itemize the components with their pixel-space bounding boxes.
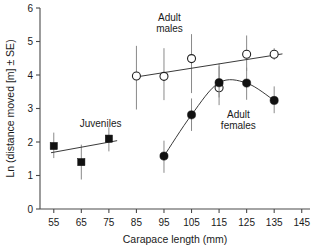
annotation-label: Adult [158, 12, 181, 23]
series-adult-females [160, 66, 278, 173]
x-tick-label: 65 [76, 217, 88, 228]
data-point [160, 152, 168, 160]
y-tick-label: 4 [27, 70, 33, 81]
x-tick-label: 85 [131, 217, 143, 228]
y-tick-label: 0 [27, 204, 33, 215]
y-tick-label: 5 [27, 36, 33, 47]
annotation-label: males [156, 23, 183, 34]
x-tick-label: 95 [158, 217, 170, 228]
trend-line [134, 54, 283, 77]
y-tick-label: 2 [27, 137, 33, 148]
annotation-label: Adult [227, 109, 250, 120]
data-point [160, 72, 168, 80]
x-tick-label: 115 [211, 217, 227, 228]
data-point [50, 142, 57, 149]
data-point [105, 135, 112, 142]
y-tick-label: 6 [27, 3, 33, 14]
x-tick-label: 55 [48, 217, 60, 228]
series-adult-males [132, 34, 282, 109]
data-point [270, 96, 278, 104]
x-tick-label: 135 [266, 217, 283, 228]
annotation-label: females [221, 120, 256, 131]
x-tick-label: 105 [183, 217, 200, 228]
data-point [215, 79, 223, 87]
data-point [188, 55, 196, 63]
y-tick-label: 1 [27, 170, 33, 181]
y-tick-label: 3 [27, 103, 33, 114]
y-axis-title: Ln (distance moved [m] ± SE) [4, 39, 16, 177]
x-axis-title: Carapace length (mm) [123, 233, 227, 245]
chart-container: 01234565565758595105115125135145Carapace… [0, 0, 316, 248]
annotation-label: Juveniles [80, 118, 122, 129]
data-point [187, 111, 195, 119]
data-point [243, 79, 251, 87]
data-point [132, 72, 140, 80]
data-point [243, 50, 251, 58]
data-point [270, 50, 278, 58]
series-juveniles [50, 127, 117, 179]
x-tick-label: 125 [238, 217, 255, 228]
x-tick-label: 75 [103, 217, 115, 228]
x-tick-label: 145 [293, 217, 310, 228]
scatter-plot: 01234565565758595105115125135145Carapace… [0, 0, 316, 248]
data-point [78, 159, 85, 166]
